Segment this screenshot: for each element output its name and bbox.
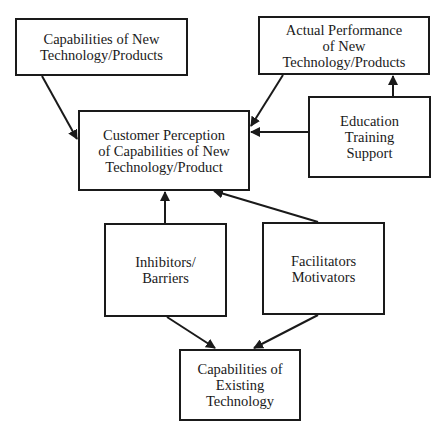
edge-facilitators-to-cap-existing (254, 315, 318, 348)
node-customer-perception: Customer Perception of Capabilities of N… (78, 110, 250, 191)
edge-cap-new-to-customer-perception (42, 76, 77, 139)
node-inhibitors-barriers: Inhibitors/ Barriers (104, 223, 227, 317)
node-education-training-support: Education Training Support (308, 96, 431, 178)
node-actual-performance: Actual Performance of New Technology/Pro… (258, 16, 430, 75)
diagram-canvas: Capabilities of New Technology/Products … (0, 0, 445, 433)
node-capabilities-new-technology: Capabilities of New Technology/Products (15, 18, 188, 76)
node-capabilities-existing-technology: Capabilities of Existing Technology (179, 349, 301, 421)
node-facilitators-motivators: Facilitators Motivators (262, 222, 385, 315)
edge-inhibitors-to-cap-existing (167, 317, 215, 348)
edge-facilitators-to-customer-perception (214, 191, 318, 222)
edge-actual-perf-to-customer-perception (251, 75, 283, 126)
